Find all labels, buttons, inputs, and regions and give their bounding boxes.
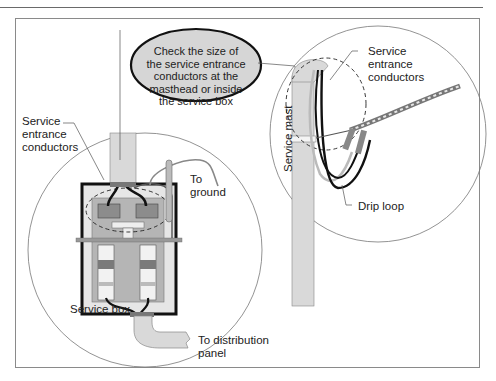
label-to-ground: To ground [190, 173, 226, 199]
drip-loop-conductors [310, 70, 370, 188]
top-conduit [110, 133, 136, 185]
service-drop-cable [316, 86, 460, 154]
label-service-entrance-conductors-right: Service entrance conductors [368, 45, 424, 84]
fuse-right [140, 245, 156, 300]
label-to-distribution-panel: To distribution panel [198, 334, 269, 360]
label-service-box: Service box [70, 303, 130, 316]
fuse-left [98, 245, 114, 300]
label-service-mast: Service mast [282, 106, 294, 172]
label-drip-loop: Drip loop [358, 200, 404, 213]
callout-text: Check the size of the service entrance c… [137, 45, 255, 108]
label-service-entrance-conductors-left: Service entrance conductors [22, 115, 78, 154]
lower-conduit [134, 316, 190, 348]
